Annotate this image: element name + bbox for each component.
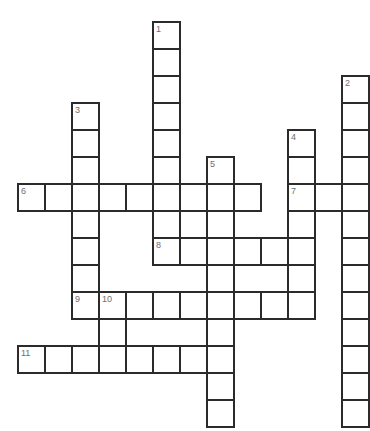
crossword-cell[interactable] <box>179 237 208 266</box>
crossword-cell[interactable] <box>152 48 181 77</box>
crossword-cell[interactable] <box>341 156 370 185</box>
crossword-cell[interactable] <box>179 183 208 212</box>
crossword-cell[interactable] <box>152 237 181 266</box>
crossword-cell[interactable] <box>71 291 100 320</box>
crossword-cell[interactable] <box>260 291 289 320</box>
crossword-cell[interactable] <box>233 237 262 266</box>
crossword-cell[interactable] <box>233 183 262 212</box>
crossword-cell[interactable] <box>71 210 100 239</box>
crossword-cell[interactable] <box>341 75 370 104</box>
crossword-cell[interactable] <box>341 291 370 320</box>
crossword-cell[interactable] <box>152 156 181 185</box>
crossword-cell[interactable] <box>152 129 181 158</box>
crossword-cell[interactable] <box>287 156 316 185</box>
crossword-cell[interactable] <box>152 210 181 239</box>
crossword-cell[interactable] <box>341 210 370 239</box>
crossword-cell[interactable] <box>287 129 316 158</box>
crossword-cell[interactable] <box>44 183 73 212</box>
crossword-cell[interactable] <box>152 21 181 50</box>
crossword-cell[interactable] <box>71 345 100 374</box>
crossword-cell[interactable] <box>206 183 235 212</box>
crossword-cell[interactable] <box>233 291 262 320</box>
crossword-cell[interactable] <box>287 210 316 239</box>
crossword-cell[interactable] <box>125 345 154 374</box>
crossword-cell[interactable] <box>98 291 127 320</box>
crossword-cell[interactable] <box>71 237 100 266</box>
crossword-cell[interactable] <box>206 210 235 239</box>
crossword-cell[interactable] <box>17 183 46 212</box>
crossword-cell[interactable] <box>341 183 370 212</box>
crossword-cell[interactable] <box>287 264 316 293</box>
crossword-cell[interactable] <box>98 345 127 374</box>
crossword-cell[interactable] <box>287 237 316 266</box>
crossword-cell[interactable] <box>17 345 46 374</box>
crossword-cell[interactable] <box>206 237 235 266</box>
crossword-cell[interactable] <box>152 183 181 212</box>
crossword-cell[interactable] <box>287 291 316 320</box>
crossword-cell[interactable] <box>71 102 100 131</box>
crossword-cell[interactable] <box>341 102 370 131</box>
crossword-cell[interactable] <box>260 237 289 266</box>
crossword-cell[interactable] <box>206 345 235 374</box>
crossword-cell[interactable] <box>206 318 235 347</box>
crossword-cell[interactable] <box>152 102 181 131</box>
crossword-cell[interactable] <box>179 345 208 374</box>
crossword-cell[interactable] <box>98 318 127 347</box>
crossword-cell[interactable] <box>71 129 100 158</box>
crossword-cell[interactable] <box>341 264 370 293</box>
crossword-cell[interactable] <box>44 345 73 374</box>
crossword-cell[interactable] <box>341 372 370 401</box>
crossword-cell[interactable] <box>71 183 100 212</box>
crossword-cell[interactable] <box>341 345 370 374</box>
crossword-cell[interactable] <box>125 183 154 212</box>
crossword-cell[interactable] <box>152 291 181 320</box>
crossword-cell[interactable] <box>71 156 100 185</box>
crossword-cell[interactable] <box>341 129 370 158</box>
crossword-cell[interactable] <box>71 264 100 293</box>
crossword-cell[interactable] <box>206 372 235 401</box>
crossword-cell[interactable] <box>98 183 127 212</box>
crossword-cell[interactable] <box>206 156 235 185</box>
crossword-cell[interactable] <box>287 183 316 212</box>
crossword-cell[interactable] <box>206 291 235 320</box>
crossword-cell[interactable] <box>206 264 235 293</box>
crossword-cell[interactable] <box>341 318 370 347</box>
crossword-cell[interactable] <box>152 75 181 104</box>
crossword-cell[interactable] <box>125 291 154 320</box>
crossword-cell[interactable] <box>179 291 208 320</box>
crossword-cell[interactable] <box>314 183 343 212</box>
crossword-cell[interactable] <box>341 237 370 266</box>
crossword-cell[interactable] <box>206 399 235 428</box>
crossword-cell[interactable] <box>341 399 370 428</box>
crossword-cell[interactable] <box>152 345 181 374</box>
